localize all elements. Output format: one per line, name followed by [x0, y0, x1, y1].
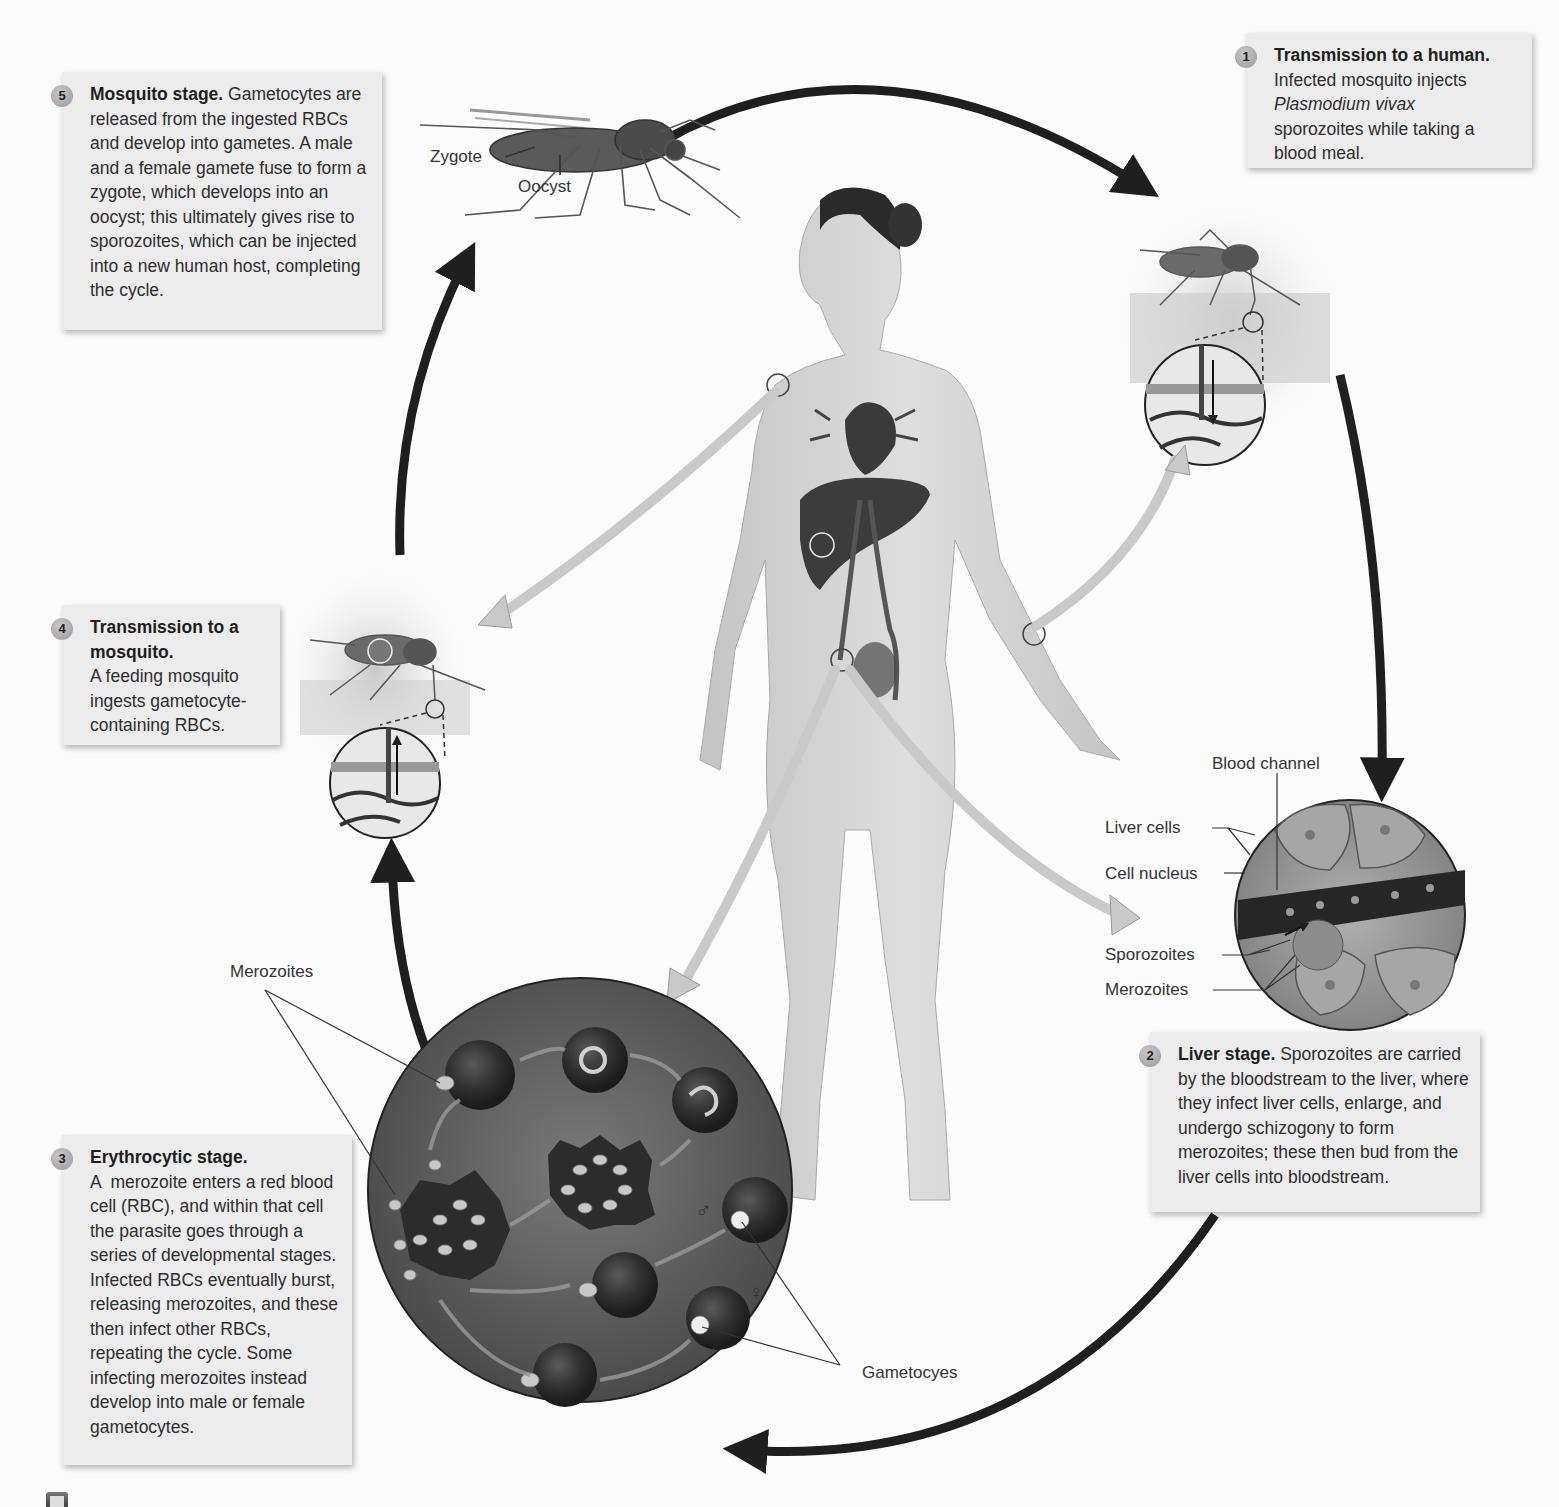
book-icon: [46, 1492, 68, 1507]
stage-body: Sporozoites are carried by the bloodstre…: [1178, 1044, 1469, 1187]
species-name: Plasmodium vivax: [1274, 92, 1522, 117]
stage-number-badge: 3: [51, 1148, 73, 1170]
stage-3-box: 3 Erythrocytic stage. A merozoite enters…: [62, 1135, 352, 1465]
mosquito-feeding-stage-1: [1115, 200, 1345, 465]
stage-number-badge: 2: [1139, 1045, 1161, 1067]
label-cell-nucleus: Cell nucleus: [1105, 864, 1198, 884]
human-figure: [700, 188, 1120, 1200]
label-oocyst: Oocyst: [518, 177, 571, 197]
stage-title: Transmission to a human.: [1274, 45, 1490, 65]
stage-number-badge: 1: [1235, 46, 1257, 68]
label-merozoites-rbc: Merozoites: [230, 962, 313, 982]
cycle-arrow-4-to-5: [400, 262, 465, 555]
rbc-erythrocytic-inset: [368, 978, 792, 1407]
stage-body: Gametocytes are released from the ingest…: [90, 84, 366, 300]
cycle-arrow-5-to-1: [665, 89, 1140, 185]
cycle-arrow-1-to-2: [1340, 375, 1382, 780]
stage-body: A merozoite enters a red blood cell (RBC…: [90, 1170, 342, 1440]
cycle-arrow-2-to-3: [745, 1215, 1215, 1451]
skin-inset-magnified: [1145, 345, 1265, 465]
stage-title: Erythrocytic stage.: [90, 1145, 342, 1170]
label-merozoites-liver: Merozoites: [1105, 980, 1188, 1000]
stage-5-box: 5 Mosquito stage. Gametocytes are releas…: [62, 72, 382, 330]
label-sporozoites: Sporozoites: [1105, 945, 1195, 965]
label-blood-channel: Blood channel: [1212, 754, 1320, 774]
label-gametocytes: Gametocyes: [862, 1363, 957, 1383]
stage-number-badge: 4: [51, 618, 73, 640]
mosquito-feeding-stage-4: [280, 565, 485, 838]
liver-cell-inset: [1235, 800, 1465, 1030]
stage-title: Mosquito stage.: [90, 84, 223, 104]
stage-4-box: 4 Transmission to a mosquito. A feeding …: [62, 605, 280, 745]
skin-inset-magnified: [330, 728, 440, 838]
stage-2-box: 2 Liver stage. Sporozoites are carried b…: [1150, 1032, 1480, 1212]
male-symbol-icon: ♂: [695, 1198, 712, 1224]
stage-1-box: 1 Transmission to a human. Infected mosq…: [1246, 33, 1532, 168]
stage-body-line: Infected mosquito injects: [1274, 68, 1522, 93]
female-symbol-icon: ♀: [748, 1280, 765, 1306]
stage-title: Transmission to a mosquito.: [90, 615, 270, 664]
stage-title: Liver stage.: [1178, 1044, 1275, 1064]
cycle-arrow-3-to-4: [392, 860, 428, 1055]
stage-number-badge: 5: [51, 85, 73, 107]
label-zygote: Zygote: [430, 147, 482, 167]
stage-body-line: sporozoites while taking a blood meal.: [1274, 117, 1522, 166]
stage-body: A feeding mosquito ingests gametocyte-co…: [90, 664, 270, 738]
label-liver-cells: Liver cells: [1105, 818, 1181, 838]
